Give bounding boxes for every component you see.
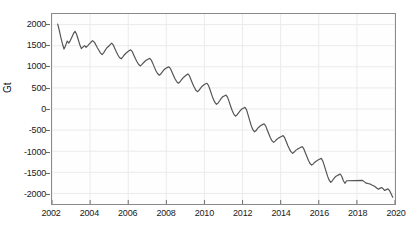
y-tick-label: 1000 — [27, 61, 46, 71]
y-tick-label: -500 — [29, 125, 46, 135]
mass-anomaly-line — [52, 14, 395, 204]
y-tick-mark — [46, 88, 50, 89]
x-tick-label: 2020 — [386, 208, 405, 218]
chart-figure: Gt 2000150010005000-500-1000-1500-2000 2… — [0, 0, 416, 235]
series-path — [58, 24, 393, 197]
y-tick-mark — [46, 152, 50, 153]
y-tick-mark — [46, 130, 50, 131]
y-tick-label: 2000 — [27, 19, 46, 29]
x-tick-label: 2010 — [195, 208, 214, 218]
y-tick-label: 1500 — [27, 40, 46, 50]
x-tick-label: 2004 — [80, 208, 99, 218]
y-tick-mark — [46, 194, 50, 195]
y-tick-mark — [46, 45, 50, 46]
y-tick-mark — [46, 109, 50, 110]
y-tick-label: -1000 — [24, 147, 46, 157]
x-axis-tick-labels: 2002200420062008201020122014201620182020 — [51, 208, 396, 224]
x-tick-label: 2016 — [310, 208, 329, 218]
y-tick-mark — [46, 66, 50, 67]
x-tick-label: 2002 — [41, 208, 60, 218]
y-tick-mark — [46, 173, 50, 174]
y-tick-label: 500 — [32, 83, 46, 93]
y-tick-mark — [46, 24, 50, 25]
y-tick-label: -2000 — [24, 189, 46, 199]
x-tick-label: 2012 — [233, 208, 252, 218]
plot-area — [51, 13, 396, 205]
y-tick-label: -1500 — [24, 168, 46, 178]
x-tick-label: 2018 — [348, 208, 367, 218]
y-axis-tick-labels: 2000150010005000-500-1000-1500-2000 — [0, 13, 46, 205]
x-tick-label: 2006 — [118, 208, 137, 218]
x-tick-label: 2008 — [156, 208, 175, 218]
x-tick-label: 2014 — [271, 208, 290, 218]
